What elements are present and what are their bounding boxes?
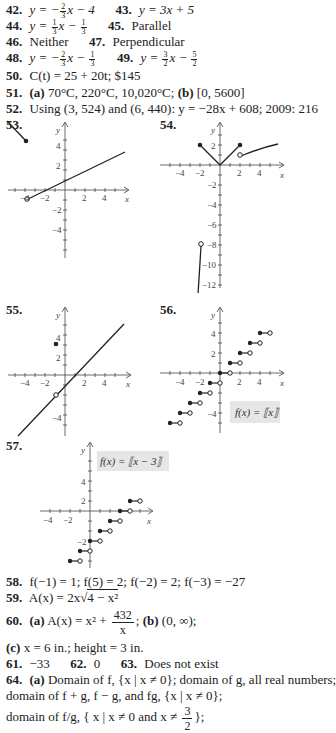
answer-text: A(x) = x² +	[47, 613, 110, 628]
answer-number: 63.	[121, 656, 137, 671]
answer-number: 60.	[6, 613, 22, 628]
svg-text:y: y	[210, 310, 215, 320]
part-label: (a)	[30, 85, 45, 100]
svg-text:−2: −2	[52, 205, 62, 215]
svg-text:−2: −2	[207, 180, 217, 190]
answer-text: y =	[30, 18, 51, 33]
y-axis-label: y	[55, 125, 60, 135]
graph-55: y x −4−224 42−4	[0, 303, 150, 438]
svg-text:−8: −8	[207, 240, 217, 250]
svg-text:2: 2	[237, 168, 242, 178]
svg-text:−4: −4	[175, 168, 185, 178]
answer-number: 46.	[6, 34, 22, 49]
radicand: 4 − x²	[87, 589, 118, 605]
answer-text: 0	[94, 656, 101, 671]
svg-text:−4: −4	[207, 200, 217, 210]
part-label: (c)	[6, 640, 20, 655]
svg-text:−2: −2	[195, 377, 205, 387]
answer-number: 49.	[117, 50, 133, 65]
answer-line-61-63: 61. −33 62. 0 63. Does not exist	[6, 657, 219, 671]
svg-text:2: 2	[211, 349, 216, 359]
svg-text:2: 2	[211, 141, 216, 151]
answer-number: 58.	[6, 574, 22, 589]
svg-text:−4: −4	[20, 193, 30, 203]
graph-54: y x −4−224 2−2−4−6−8−10−12	[150, 118, 305, 293]
answer-text: [0, 5600]	[197, 85, 245, 100]
answer-number: 61.	[6, 656, 22, 671]
answer-text: −33	[30, 656, 50, 671]
answer-line-51: 51. (a) 70°C, 220°C, 10,020°C; (b) [0, 5…	[6, 86, 244, 100]
answer-number: 45.	[108, 18, 124, 33]
answer-text: Does not exist	[144, 656, 218, 671]
answer-text: 70°C, 220°C, 10,020°C;	[48, 85, 174, 100]
answer-line-52: 52. Using (3, 524) and (6, 440): y = −28…	[6, 102, 318, 116]
svg-text:−4: −4	[175, 377, 185, 387]
svg-text:2: 2	[237, 377, 242, 387]
answer-number: 59.	[6, 590, 22, 605]
graph-57: f(x) = ⟦x − 3⟧ y x −4−2 42−2	[40, 438, 200, 570]
svg-text:4: 4	[102, 193, 107, 203]
svg-text:2: 2	[81, 496, 86, 506]
answer-number: 48.	[6, 50, 22, 65]
svg-text:−6: −6	[207, 220, 217, 230]
svg-text:4: 4	[257, 377, 262, 387]
graph-label-57: 57.	[6, 438, 22, 454]
part-label: (b)	[143, 613, 159, 628]
fraction: 32	[182, 704, 192, 733]
answer-text: A(x) = 2x√	[29, 590, 88, 605]
fraction: 432x	[112, 608, 134, 637]
answer-text: y = −	[30, 50, 60, 65]
answer-number: 44.	[6, 18, 22, 33]
answer-number: 42.	[6, 2, 22, 17]
answer-line-46-47: 46. Neither 47. Perpendicular	[6, 35, 185, 49]
answer-number: 51.	[6, 85, 22, 100]
svg-text:−4: −4	[43, 515, 53, 525]
svg-text:−2: −2	[40, 378, 50, 388]
answer-text: domain of f + g, f − g, and fg, {x | x ≠…	[6, 688, 222, 703]
svg-text:4: 4	[102, 378, 107, 388]
fraction: 13	[89, 51, 95, 68]
svg-text:2: 2	[82, 378, 87, 388]
svg-text:4: 4	[257, 168, 262, 178]
answer-number: 52.	[6, 101, 22, 116]
answer-number: 47.	[89, 34, 105, 49]
answer-text: f(−1) = 1; f(5) = 2; f(−2) = 2; f(−3) = …	[30, 574, 246, 589]
svg-text:4: 4	[211, 329, 216, 339]
svg-text:−4: −4	[52, 225, 62, 235]
svg-text:−10: −10	[202, 260, 217, 270]
part-label: (b)	[178, 85, 194, 100]
answer-text: y =	[140, 50, 161, 65]
answer-text: C(t) = 25 + 20t; $145	[30, 68, 141, 83]
graph-caption: f(x) = ⟦x⟧	[235, 406, 280, 419]
graph-53: y x −4−224 42−2−4	[0, 118, 150, 263]
svg-text:−2: −2	[77, 537, 87, 547]
answer-line-64b: domain of f + g, f − g, and fg, {x | x ≠…	[6, 689, 222, 703]
answer-line-59: 59. A(x) = 2x√4 − x²	[6, 591, 118, 605]
svg-text:x: x	[279, 170, 284, 180]
fraction: 32	[162, 51, 168, 68]
answer-number: 62.	[70, 656, 86, 671]
svg-text:x: x	[279, 378, 284, 388]
answer-number: 43.	[115, 2, 131, 17]
answer-text: Using (3, 524) and (6, 440): y = −28x + …	[30, 101, 318, 116]
answer-text: Perpendicular	[112, 34, 184, 49]
svg-text:x: x	[146, 516, 151, 526]
svg-text:4: 4	[81, 477, 86, 487]
answer-text: (0, ∞);	[162, 613, 197, 628]
answer-text: x = 6 in.; height = 3 in.	[24, 640, 144, 655]
svg-text:−2: −2	[195, 168, 205, 178]
answer-text: y = −	[30, 2, 60, 17]
svg-text:−2: −2	[63, 515, 73, 525]
answer-text: Neither	[30, 34, 69, 49]
svg-text:−4: −4	[207, 409, 217, 419]
answer-text: Domain of f, {x | x ≠ 0}; domain of g, a…	[48, 672, 336, 687]
svg-text:2: 2	[56, 353, 61, 363]
svg-text:−4: −4	[52, 413, 62, 423]
answer-line-60: 60. (a) A(x) = x² + 432x; (b) (0, ∞);	[6, 606, 196, 637]
answer-text: x −	[169, 50, 190, 65]
answer-text: x − 4	[67, 2, 95, 17]
fraction: 23	[60, 51, 66, 68]
svg-text:−12: −12	[202, 280, 216, 290]
answer-text: domain of f/g,	[6, 709, 83, 724]
svg-text:y: y	[80, 445, 85, 455]
